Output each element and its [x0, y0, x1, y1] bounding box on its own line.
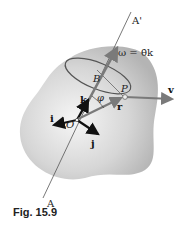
label-axis-top: A' — [131, 15, 142, 26]
label-unit-i: i — [50, 113, 54, 124]
origin-marker — [75, 118, 78, 121]
label-velocity-v: v — [167, 84, 175, 95]
point-p-marker — [123, 95, 128, 100]
label-origin: O — [66, 119, 74, 130]
label-omega: ω = θ̇k — [118, 47, 154, 58]
label-point-b: B — [92, 73, 100, 84]
label-point-p: P — [120, 83, 128, 94]
label-position-r: r — [117, 101, 123, 112]
label-angle-phi: φ — [97, 92, 104, 103]
figure-caption: Fig. 15.9 — [13, 206, 57, 218]
rigid-body-rotation-diagram: A' A ω = θ̇k B P O φ i j k r v — [0, 0, 190, 229]
label-unit-j: j — [90, 138, 95, 149]
label-unit-k: k — [80, 94, 88, 105]
